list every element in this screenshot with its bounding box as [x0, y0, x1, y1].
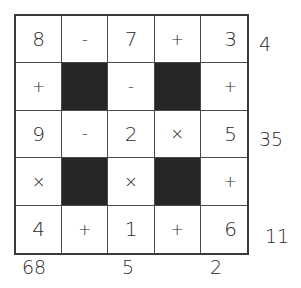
cell-number[interactable]: 2: [108, 111, 154, 158]
cell-operator: +: [155, 206, 201, 253]
cell-number[interactable]: 6: [201, 206, 247, 253]
blocked-cell: [62, 63, 108, 110]
blocked-cell: [62, 158, 108, 205]
row-result-5: 11: [265, 225, 289, 247]
cell-operator: ×: [155, 111, 201, 158]
cell-operator: -: [62, 16, 108, 63]
cell-number[interactable]: 3: [201, 16, 247, 63]
puzzle-grid: 8 - 7 + 3 + - + 9 - 2 × 5 × × + 4 + 1 + …: [14, 14, 249, 255]
col-result-1: 68: [22, 256, 46, 278]
row-result-1: 4: [259, 33, 271, 55]
cell-operator: -: [108, 63, 154, 110]
cell-number[interactable]: 1: [108, 206, 154, 253]
cell-number[interactable]: 7: [108, 16, 154, 63]
cell-number[interactable]: 9: [16, 111, 62, 158]
cell-number[interactable]: 4: [16, 206, 62, 253]
blocked-cell: [155, 158, 201, 205]
cell-operator: +: [201, 63, 247, 110]
cell-number[interactable]: 5: [201, 111, 247, 158]
cell-operator: -: [62, 111, 108, 158]
row-result-3: 35: [259, 128, 283, 150]
cell-operator: ×: [108, 158, 154, 205]
cell-operator: +: [155, 16, 201, 63]
cell-operator: +: [62, 206, 108, 253]
col-result-3: 5: [122, 256, 134, 278]
col-result-5: 2: [210, 256, 222, 278]
blocked-cell: [155, 63, 201, 110]
cell-operator: +: [16, 63, 62, 110]
cell-number[interactable]: 8: [16, 16, 62, 63]
cell-operator: ×: [16, 158, 62, 205]
cell-operator: +: [201, 158, 247, 205]
